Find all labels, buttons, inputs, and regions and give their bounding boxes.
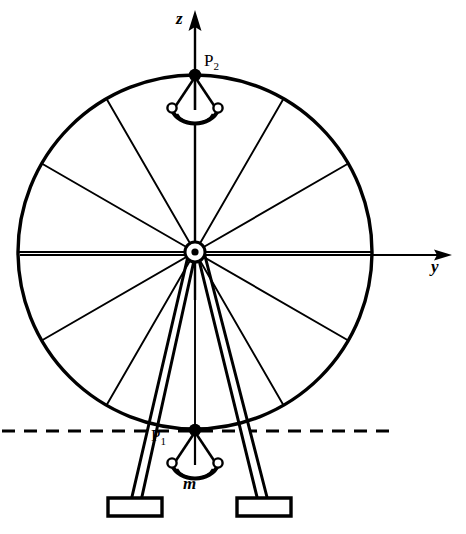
gondola-bottom-pivot-left	[167, 458, 176, 467]
spoke-300	[195, 252, 284, 405]
mass-label-m: m	[183, 475, 196, 492]
support-leg-right	[198, 256, 268, 501]
gondola-top-pivot-right	[213, 103, 222, 112]
point-marker-p2	[189, 69, 201, 81]
z-axis-label: z	[176, 10, 183, 27]
support-leg-left	[131, 256, 195, 501]
spoke-240	[107, 252, 196, 405]
point-label-p2: P2	[204, 52, 219, 72]
hub-inner-disc	[191, 248, 198, 255]
gondola-top-pivot-left	[167, 103, 176, 112]
axis-group	[20, 10, 452, 300]
wheel-hub	[185, 242, 205, 262]
support-foot-right	[237, 498, 291, 516]
point-label-p1-subscript: 1	[160, 435, 166, 447]
point-label-p2-subscript: 2	[213, 60, 219, 72]
gondola-bottom	[167, 424, 222, 479]
point-marker-p1	[189, 424, 201, 436]
point-label-p1: P1	[151, 427, 166, 447]
gondola-bottom-pivot-right	[213, 458, 222, 467]
spoke-150	[42, 164, 195, 253]
y-axis-label: y	[431, 258, 439, 275]
ferris-wheel-drawing	[0, 0, 466, 534]
ferris-wheel-figure: z y P2 P1 m	[0, 0, 466, 534]
support-foot-left	[108, 498, 162, 516]
spoke-30	[195, 164, 348, 253]
